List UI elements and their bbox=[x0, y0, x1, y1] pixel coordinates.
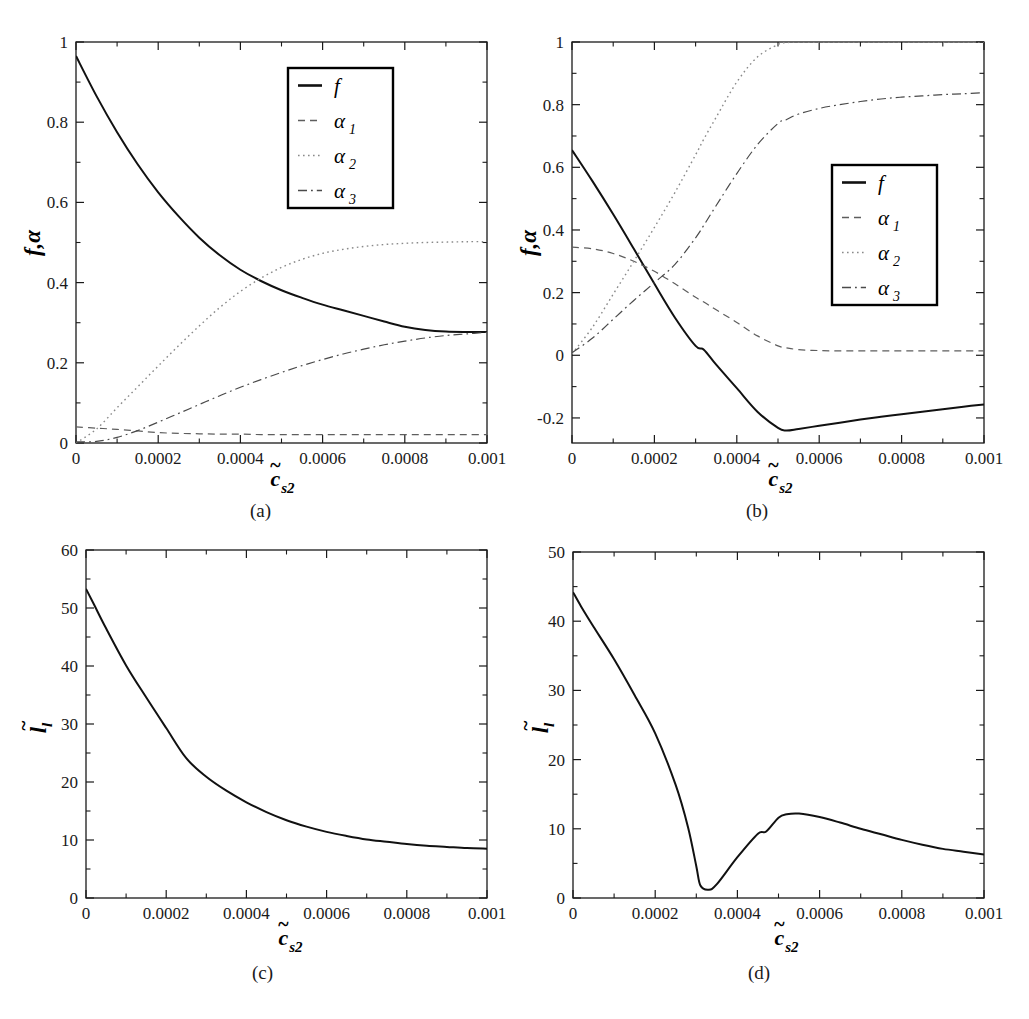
y-tick-label: 10 bbox=[61, 831, 78, 850]
legend-label-subscript: 1 bbox=[893, 219, 900, 234]
x-tick-label: 0.0002 bbox=[631, 449, 678, 468]
x-tick-label: 0.0006 bbox=[303, 904, 350, 923]
tilde-accent-d2: ~ bbox=[774, 913, 785, 936]
legend-label-subscript: 2 bbox=[893, 254, 900, 269]
series-line-l_tilde bbox=[86, 589, 487, 849]
panel-a-ylabel-alpha: α bbox=[20, 230, 45, 243]
x-tick-label: 0.0004 bbox=[714, 904, 761, 923]
panel-b-ylabel: f,α bbox=[516, 208, 542, 278]
tilde-accent-a: ~ bbox=[270, 454, 281, 477]
x-tick-label: 0.0002 bbox=[632, 904, 679, 923]
panel-d-plot: 00.00020.00040.00060.00080.0010102030405… bbox=[514, 510, 1029, 970]
y-tick-label: 30 bbox=[61, 715, 78, 734]
x-tick-label: 0.001 bbox=[468, 904, 506, 923]
y-tick-label: 60 bbox=[61, 541, 78, 560]
panel-c-xlabel: ~cs2 bbox=[240, 925, 340, 951]
y-tick-label: 40 bbox=[548, 612, 565, 631]
legend-label: α bbox=[334, 109, 346, 133]
y-tick-label: 0.6 bbox=[543, 158, 564, 177]
y-tick-label: 50 bbox=[548, 543, 565, 562]
x-tick-label: 0.001 bbox=[468, 449, 506, 468]
legend-label: α bbox=[334, 179, 346, 203]
x-tick-label: 0.0008 bbox=[878, 449, 925, 468]
panel-b-xlabel-sub: s2 bbox=[779, 480, 792, 496]
y-tick-label: 0 bbox=[70, 889, 79, 908]
panel-d-ylabel: ~ll bbox=[528, 693, 554, 763]
x-tick-label: 0.0008 bbox=[878, 904, 925, 923]
x-tick-label: 0.0002 bbox=[143, 904, 190, 923]
panel-d-caption: (d) bbox=[748, 962, 770, 984]
legend-label-subscript: 1 bbox=[349, 122, 356, 137]
panel-c: 00.00020.00040.00060.00080.0010102030405… bbox=[0, 510, 515, 970]
legend-label: α bbox=[878, 241, 890, 265]
panel-d: 00.00020.00040.00060.00080.0010102030405… bbox=[514, 510, 1029, 970]
panel-a-ylabel-text: f, bbox=[20, 243, 45, 256]
y-tick-label: 0 bbox=[556, 346, 565, 365]
panel-c-xlabel-sub: s2 bbox=[289, 939, 302, 955]
legend-box: fα1α2α3 bbox=[288, 68, 393, 208]
tilde-accent-b: ~ bbox=[768, 454, 779, 477]
x-tick-label: 0 bbox=[569, 904, 578, 923]
y-tick-label: 0.4 bbox=[543, 221, 565, 240]
y-tick-label: 0.4 bbox=[47, 274, 69, 293]
figure-container: 00.00020.00040.00060.00080.00100.20.40.6… bbox=[0, 0, 1029, 1019]
panel-b-ylabel-text: f, bbox=[516, 243, 541, 256]
y-tick-label: 0 bbox=[557, 889, 566, 908]
legend-box: fα1α2α3 bbox=[832, 165, 937, 305]
x-tick-label: 0.0008 bbox=[381, 449, 428, 468]
y-tick-label: 50 bbox=[61, 599, 78, 618]
legend-label: α bbox=[878, 276, 890, 300]
panel-c-ylabel-sub: l bbox=[39, 723, 55, 727]
panel-a-plot: 00.00020.00040.00060.00080.00100.20.40.6… bbox=[0, 0, 515, 470]
tilde-accent-c2: ~ bbox=[278, 913, 289, 936]
y-tick-label: 0.8 bbox=[543, 96, 564, 115]
y-tick-label: 0.2 bbox=[47, 354, 68, 373]
series-line-alpha_3 bbox=[76, 332, 487, 442]
x-tick-label: 0.0008 bbox=[383, 904, 430, 923]
x-tick-label: 0.0002 bbox=[135, 449, 182, 468]
panel-c-ylabel: ~ll bbox=[26, 693, 52, 763]
panel-b-xlabel: ~cs2 bbox=[730, 466, 830, 492]
panel-b-ylabel-alpha: α bbox=[516, 230, 541, 243]
panel-b: 00.00020.00040.00060.00080.001-0.200.20.… bbox=[514, 0, 1029, 470]
panel-a-xlabel-sub: s2 bbox=[281, 480, 294, 496]
legend-label-subscript: 3 bbox=[348, 192, 356, 207]
y-tick-label: 20 bbox=[61, 773, 78, 792]
x-tick-label: 0 bbox=[82, 904, 91, 923]
x-tick-label: 0.0004 bbox=[223, 904, 270, 923]
panel-d-xlabel: ~cs2 bbox=[736, 925, 836, 951]
y-tick-label: -0.2 bbox=[537, 409, 564, 428]
legend-label: α bbox=[878, 206, 890, 230]
panel-a: 00.00020.00040.00060.00080.00100.20.40.6… bbox=[0, 0, 515, 470]
y-tick-label: 0.2 bbox=[543, 284, 564, 303]
panel-c-caption: (c) bbox=[252, 962, 273, 984]
legend-label-subscript: 2 bbox=[349, 157, 356, 172]
legend-label: α bbox=[334, 144, 346, 168]
panel-d-ylabel-sub: l bbox=[541, 723, 557, 727]
y-tick-label: 10 bbox=[548, 820, 565, 839]
y-tick-label: 0.8 bbox=[47, 113, 68, 132]
y-tick-label: 1 bbox=[556, 33, 565, 52]
series-line-f bbox=[76, 56, 487, 332]
x-tick-label: 0.001 bbox=[965, 904, 1003, 923]
panel-d-xlabel-sub: s2 bbox=[785, 939, 798, 955]
legend-label-subscript: 3 bbox=[892, 289, 900, 304]
x-tick-label: 0 bbox=[568, 449, 577, 468]
series-line-alpha_2 bbox=[76, 242, 487, 443]
y-tick-label: 0 bbox=[60, 434, 69, 453]
tilde-accent-c: ~ bbox=[13, 720, 35, 731]
x-tick-label: 0.0006 bbox=[796, 904, 843, 923]
panel-a-xlabel: ~cs2 bbox=[232, 466, 332, 492]
x-tick-label: 0.001 bbox=[965, 449, 1003, 468]
y-tick-label: 40 bbox=[61, 657, 78, 676]
x-tick-label: 0 bbox=[72, 449, 81, 468]
panel-a-ylabel: f,α bbox=[20, 208, 46, 278]
panel-c-plot: 00.00020.00040.00060.00080.0010102030405… bbox=[0, 510, 515, 970]
tilde-accent-d: ~ bbox=[515, 720, 537, 731]
y-tick-label: 0.6 bbox=[47, 193, 68, 212]
panel-b-plot: 00.00020.00040.00060.00080.001-0.200.20.… bbox=[514, 0, 1029, 470]
y-tick-label: 1 bbox=[60, 33, 69, 52]
series-line-l_tilde bbox=[573, 592, 984, 890]
